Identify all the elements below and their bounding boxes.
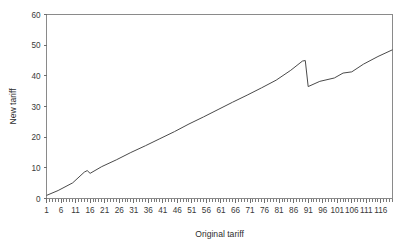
y-tick-label: 60 [31, 11, 41, 20]
x-tick-label: 16 [86, 206, 96, 215]
chart-container: 0102030405060161116212631364146515661667… [0, 0, 404, 247]
y-tick-label: 20 [31, 133, 41, 142]
plot-frame [47, 15, 393, 199]
x-tick-label: 96 [318, 206, 328, 215]
x-tick-label: 116 [374, 206, 387, 215]
data-series-line [47, 50, 393, 196]
x-tick-label: 101 [330, 206, 344, 215]
x-tick-label: 86 [289, 206, 299, 215]
x-tick-label: 36 [144, 206, 154, 215]
x-tick-label: 106 [345, 206, 359, 215]
x-tick-label: 76 [260, 206, 270, 215]
x-tick-label: 6 [59, 206, 64, 215]
x-axis-title: Original tariff [195, 229, 244, 239]
x-tick-label: 111 [360, 206, 373, 215]
x-tick-label: 26 [115, 206, 125, 215]
line-chart: 0102030405060161116212631364146515661667… [0, 0, 404, 247]
x-tick-label: 1 [44, 206, 49, 215]
y-tick-label: 50 [31, 41, 41, 50]
x-tick-label: 51 [187, 206, 197, 215]
x-tick-label: 91 [304, 206, 314, 215]
x-tick-label: 81 [275, 206, 285, 215]
x-tick-label: 71 [245, 206, 255, 215]
x-tick-label: 21 [100, 206, 110, 215]
y-tick-label: 30 [31, 103, 41, 112]
x-tick-label: 31 [129, 206, 139, 215]
y-tick-label: 40 [31, 72, 41, 81]
y-axis-title: New tariff [8, 88, 18, 125]
y-tick-label: 0 [36, 195, 41, 204]
x-tick-label: 56 [202, 206, 212, 215]
x-tick-label: 61 [216, 206, 226, 215]
x-tick-label: 66 [231, 206, 241, 215]
x-tick-label: 41 [158, 206, 168, 215]
y-tick-label: 10 [31, 164, 41, 173]
x-tick-label: 46 [173, 206, 183, 215]
x-tick-label: 11 [71, 206, 80, 215]
